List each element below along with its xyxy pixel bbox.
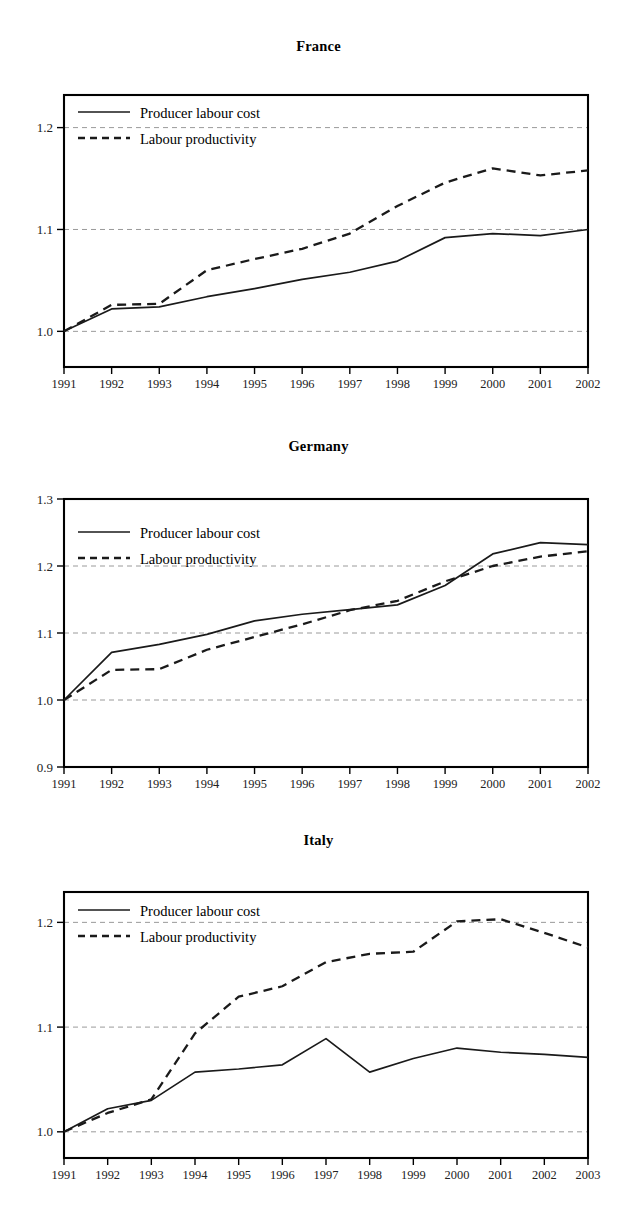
series-line-producer-labour-cost: [64, 229, 588, 331]
ytick-label: 1.2: [37, 559, 53, 574]
figure-page: France 1.01.11.2199119921993199419951996…: [0, 0, 637, 1231]
xtick-label: 2001: [528, 377, 553, 391]
xtick-label: 1998: [385, 777, 410, 791]
xtick-label: 1999: [433, 377, 458, 391]
xtick-label: 1993: [147, 377, 172, 391]
legend-label-producer-labour-cost: Producer labour cost: [140, 105, 260, 121]
chart-panel-germany: Germany 0.91.01.11.21.319911992199319941…: [0, 410, 637, 810]
chart-title-italy: Italy: [0, 832, 637, 849]
ytick-label: 1.2: [37, 915, 53, 930]
xtick-label: 1999: [433, 777, 458, 791]
xtick-label: 2002: [532, 1168, 557, 1182]
xtick-label: 2002: [576, 377, 601, 391]
series-line-producer-labour-cost: [64, 1039, 588, 1132]
xtick-label: 2000: [480, 377, 505, 391]
xtick-label: 2003: [576, 1168, 601, 1182]
xtick-label: 1992: [95, 1168, 120, 1182]
xtick-label: 1999: [401, 1168, 426, 1182]
ytick-label: 1.0: [37, 693, 53, 708]
ytick-label: 1.3: [37, 492, 53, 507]
chart-panel-france: France 1.01.11.2199119921993199419951996…: [0, 0, 637, 410]
xtick-label: 2001: [488, 1168, 513, 1182]
xtick-label: 1998: [357, 1168, 382, 1182]
chart-svg-italy: 1.01.11.21991199219931994199519961997199…: [0, 865, 637, 1231]
xtick-label: 1991: [52, 777, 77, 791]
xtick-label: 1993: [147, 777, 172, 791]
xtick-label: 1998: [385, 377, 410, 391]
xtick-label: 1991: [52, 377, 77, 391]
xtick-label: 1994: [195, 777, 220, 791]
xtick-label: 1997: [314, 1168, 339, 1182]
xtick-label: 2000: [480, 777, 505, 791]
ytick-label: 1.0: [37, 324, 53, 339]
xtick-label: 2001: [528, 777, 553, 791]
xtick-label: 1994: [195, 377, 220, 391]
xtick-label: 1996: [290, 777, 315, 791]
xtick-label: 1995: [242, 377, 267, 391]
xtick-label: 1994: [183, 1168, 208, 1182]
legend-label-labour-productivity: Labour productivity: [140, 551, 257, 567]
xtick-label: 1992: [99, 777, 124, 791]
ytick-label: 1.1: [37, 222, 53, 237]
ytick-label: 1.2: [37, 120, 53, 135]
plot-area-italy: 1.01.11.21991199219931994199519961997199…: [0, 865, 637, 1231]
legend-label-labour-productivity: Labour productivity: [140, 131, 257, 147]
ytick-label: 1.0: [37, 1124, 53, 1139]
plot-area-france: 1.01.11.21991199219931994199519961997199…: [0, 80, 637, 410]
xtick-label: 1991: [52, 1168, 77, 1182]
plot-area-germany: 0.91.01.11.21.31991199219931994199519961…: [0, 470, 637, 810]
xtick-label: 2002: [576, 777, 601, 791]
xtick-label: 1996: [270, 1168, 295, 1182]
xtick-label: 1993: [139, 1168, 164, 1182]
xtick-label: 1995: [242, 777, 267, 791]
chart-title-germany: Germany: [0, 438, 637, 455]
legend-label-labour-productivity: Labour productivity: [140, 929, 257, 945]
chart-title-france: France: [0, 38, 637, 55]
xtick-label: 1992: [99, 377, 124, 391]
chart-svg-germany: 0.91.01.11.21.31991199219931994199519961…: [0, 470, 637, 810]
xtick-label: 1996: [290, 377, 315, 391]
ytick-label: 1.1: [37, 626, 53, 641]
legend-label-producer-labour-cost: Producer labour cost: [140, 525, 260, 541]
ytick-label: 1.1: [37, 1020, 53, 1035]
legend-label-producer-labour-cost: Producer labour cost: [140, 903, 260, 919]
xtick-label: 1997: [337, 377, 362, 391]
chart-panel-italy: Italy 1.01.11.21991199219931994199519961…: [0, 810, 637, 1231]
series-line-labour-productivity: [64, 919, 588, 1132]
series-line-labour-productivity: [64, 551, 588, 700]
chart-svg-france: 1.01.11.21991199219931994199519961997199…: [0, 80, 637, 410]
xtick-label: 1997: [337, 777, 362, 791]
ytick-label: 0.9: [37, 760, 53, 775]
xtick-label: 1995: [226, 1168, 251, 1182]
xtick-label: 2000: [445, 1168, 470, 1182]
